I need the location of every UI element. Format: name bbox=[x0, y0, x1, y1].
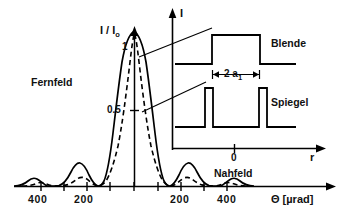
fernfeld-label: Fernfeld bbox=[31, 77, 72, 88]
blende-label: Blende bbox=[271, 38, 306, 49]
theta-axis-label: Θ [µrad] bbox=[271, 194, 313, 205]
inset-r-axis-label: r bbox=[310, 152, 314, 163]
intensity-axis-label-sub: o bbox=[115, 30, 120, 39]
spiegel-label: Spiegel bbox=[271, 97, 308, 108]
width-annotation-sub: 1 bbox=[238, 73, 242, 82]
nahfeld-label: Nahfeld bbox=[214, 168, 253, 179]
half-value-label: 0.5 bbox=[107, 105, 121, 115]
intensity-axis-label-main: I / I bbox=[100, 24, 115, 36]
intensity-axis bbox=[131, 26, 139, 187]
width-annotation-label: 2 a1 bbox=[224, 69, 242, 82]
width-annotation-main: 2 a bbox=[224, 68, 238, 79]
physics-diagram bbox=[0, 0, 340, 224]
leader-lines bbox=[139, 28, 212, 112]
xtick-label-minus200: 200 bbox=[74, 194, 93, 205]
xtick-label-plus200: 200 bbox=[170, 194, 189, 205]
xtick-label-plus400: 400 bbox=[217, 194, 236, 205]
xtick-label-minus400: 400 bbox=[28, 194, 47, 205]
figure-root: Fernfeld I / Io 1 0.5 400 200 200 400 Θ … bbox=[0, 0, 340, 224]
inset-intensity-axis-label: I bbox=[180, 8, 183, 19]
peak-value-label: 1 bbox=[122, 42, 128, 52]
inset-origin-tick-label: 0 bbox=[231, 153, 237, 163]
inset-intensity-axis bbox=[169, 8, 177, 150]
inset-r-axis bbox=[172, 144, 326, 153]
intensity-axis-label: I / Io bbox=[100, 25, 120, 39]
far-field-plot bbox=[14, 26, 336, 191]
